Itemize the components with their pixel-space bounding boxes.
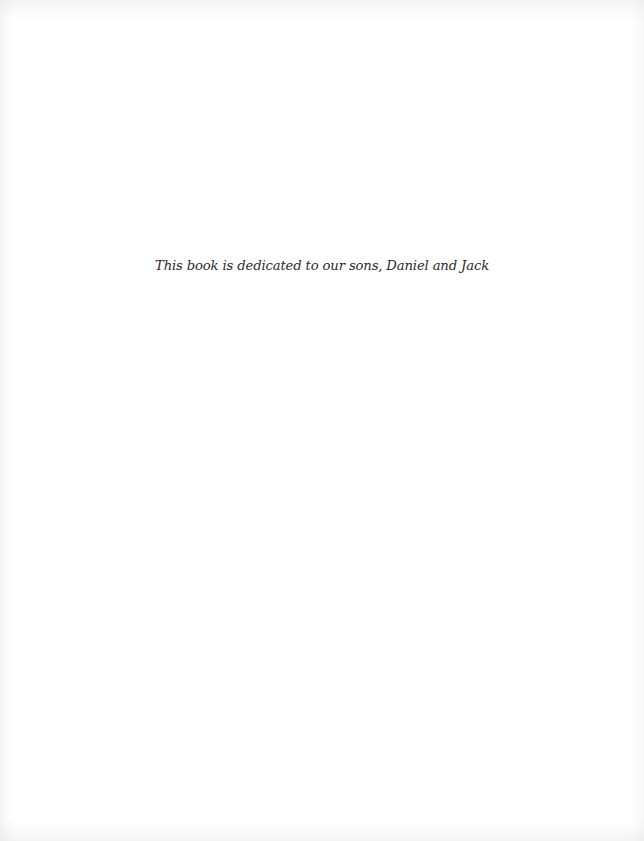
page-top-shade — [0, 0, 644, 22]
page-right-shade — [634, 0, 644, 841]
page-left-shade — [0, 0, 14, 841]
dedication-text: This book is dedicated to our sons, Dani… — [0, 257, 644, 275]
page-bottom-shade — [0, 819, 644, 841]
book-page: This book is dedicated to our sons, Dani… — [0, 0, 644, 841]
